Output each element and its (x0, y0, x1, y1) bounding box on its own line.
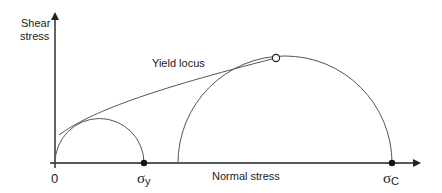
sigma-y-point (141, 160, 147, 166)
y-axis-label-line2: stress (20, 30, 50, 42)
sigma-c-label: σC (383, 170, 399, 187)
sigma-c-point (389, 160, 395, 166)
origin-label: 0 (51, 171, 58, 186)
yield-locus-curve (59, 58, 276, 135)
x-axis-label: Normal stress (212, 170, 280, 182)
yield-locus-label: Yield locus (152, 57, 205, 69)
mohr-circle-diagram: Shear stress Yield locus Normal stress 0… (0, 0, 442, 193)
large-mohr-circle (178, 56, 392, 163)
yield-end-point (272, 54, 279, 61)
small-mohr-circle (55, 119, 144, 163)
y-axis-label-line1: Shear (21, 17, 51, 29)
sigma-y-label: σy (137, 170, 151, 187)
